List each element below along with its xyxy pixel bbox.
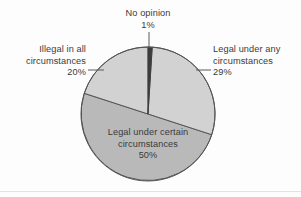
scan-edge-line [0,191,301,192]
slice-label-legal-under-certain-circumstances-line1: Legal under certain [88,127,208,139]
slice-label-legal-under-any-circumstances: Legal under any circumstances 29% [213,44,301,79]
slice-label-legal-under-any-circumstances-line2: circumstances [213,56,301,68]
slice-label-no-opinion-percent: 1% [98,20,198,32]
slice-label-legal-under-certain-circumstances: Legal under certain circumstances 50% [88,127,208,162]
slice-label-legal-under-certain-circumstances-line2: circumstances [88,139,208,151]
slice-label-no-opinion: No opinion 1% [98,8,198,31]
slice-label-illegal-in-all-circumstances-line1: Illegal in all [2,44,86,56]
slice-label-legal-under-certain-circumstances-percent: 50% [88,150,208,162]
slice-label-illegal-in-all-circumstances-line2: circumstances [2,56,86,68]
slice-label-illegal-in-all-circumstances: Illegal in all circumstances 20% [2,44,86,79]
slice-label-no-opinion-line1: No opinion [98,8,198,20]
slice-label-illegal-in-all-circumstances-percent: 20% [2,67,86,79]
slice-label-legal-under-any-circumstances-line1: Legal under any [213,44,301,56]
slice-label-legal-under-any-circumstances-percent: 29% [213,67,301,79]
pie-chart-figure: No opinion 1% Illegal in all circumstanc… [0,0,301,197]
